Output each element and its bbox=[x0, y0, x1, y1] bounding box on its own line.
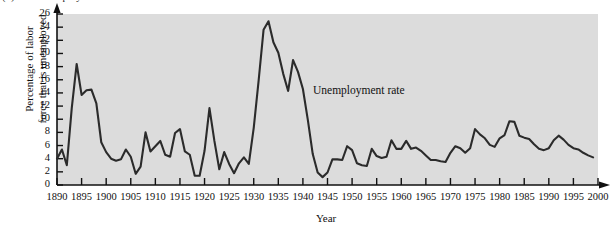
figure-unemployment-rate: (b) The Unemployment Rate Percentage of … bbox=[0, 0, 614, 228]
y-tick-label: 6 bbox=[24, 139, 50, 150]
y-tick-label: 8 bbox=[24, 125, 50, 136]
y-tick-label: 26 bbox=[24, 7, 50, 18]
y-tick-label: 16 bbox=[24, 73, 50, 84]
data-line-unemployment-rate bbox=[57, 21, 593, 177]
y-tick-label: 20 bbox=[24, 46, 50, 57]
y-tick-label: 2 bbox=[24, 165, 50, 176]
y-tick-label: 10 bbox=[24, 112, 50, 123]
y-tick-label: 24 bbox=[24, 20, 50, 31]
y-tick-label: 18 bbox=[24, 60, 50, 71]
y-tick-label: 22 bbox=[24, 33, 50, 44]
y-tick-label: 0 bbox=[24, 178, 50, 189]
y-tick-label: 14 bbox=[24, 86, 50, 97]
axis-ticks bbox=[57, 14, 598, 185]
y-tick-label: 4 bbox=[24, 152, 50, 163]
x-tick-label: 2000 bbox=[580, 191, 614, 202]
y-tick-label: 12 bbox=[24, 99, 50, 110]
